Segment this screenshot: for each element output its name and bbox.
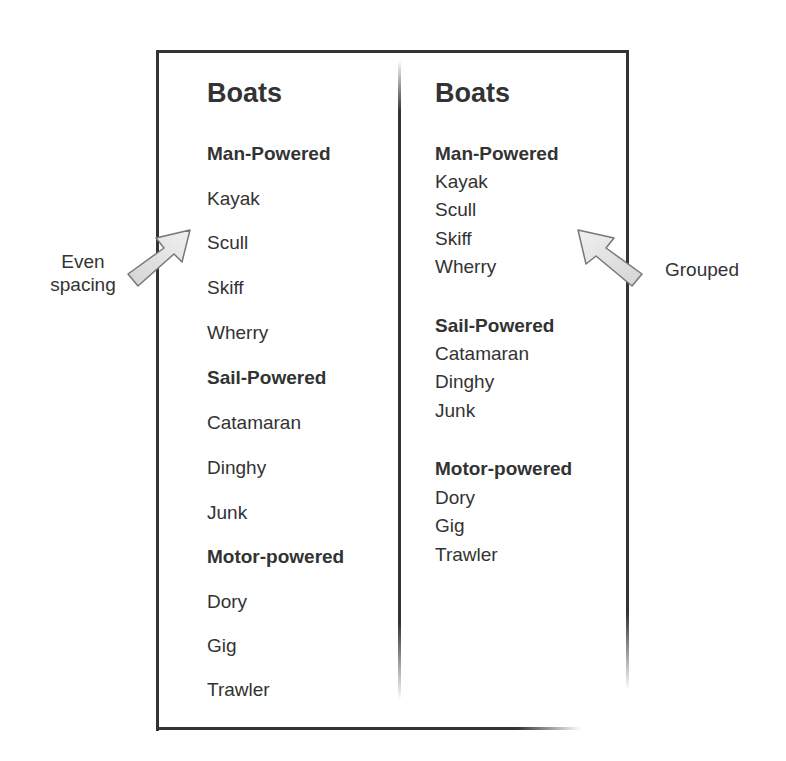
left-group-heading-sail-powered: Sail-Powered — [207, 368, 326, 387]
column-divider — [398, 60, 401, 700]
left-annotation-line-1: Even — [38, 250, 128, 273]
right-list-item: Trawler — [435, 545, 498, 564]
right-list-item: Catamaran — [435, 344, 529, 363]
left-list-item: Junk — [207, 503, 247, 522]
right-list-item: Dory — [435, 488, 475, 507]
left-list-item: Gig — [207, 636, 237, 655]
frame-bottom-border — [156, 727, 581, 730]
right-list-item: Skiff — [435, 229, 472, 248]
left-list-item: Trawler — [207, 680, 270, 699]
left-group-heading-motor-powered: Motor-powered — [207, 547, 344, 566]
right-list-item: Junk — [435, 401, 475, 420]
left-list-item: Skiff — [207, 278, 244, 297]
arrow-up-left-icon — [570, 222, 650, 294]
right-list-item: Dinghy — [435, 372, 494, 391]
right-annotation: Grouped — [652, 258, 752, 281]
frame-left-border — [156, 50, 159, 731]
frame-top-border — [156, 50, 629, 53]
right-list-item: Scull — [435, 200, 476, 219]
left-list-item: Kayak — [207, 189, 260, 208]
left-annotation: Even spacing — [38, 250, 128, 296]
right-list-item: Kayak — [435, 172, 488, 191]
right-group-heading: Motor-powered — [435, 459, 572, 478]
right-group-heading: Sail-Powered — [435, 316, 554, 335]
left-list-item: Dinghy — [207, 458, 266, 477]
left-list-item: Scull — [207, 233, 248, 252]
left-list-item: Wherry — [207, 323, 268, 342]
right-list-item: Gig — [435, 516, 465, 535]
frame-right-border — [626, 50, 629, 690]
left-list-item: Dory — [207, 592, 247, 611]
left-list-item: Catamaran — [207, 413, 301, 432]
right-group-heading: Man-Powered — [435, 144, 559, 163]
left-annotation-line-2: spacing — [38, 273, 128, 296]
right-panel-title: Boats — [435, 80, 510, 107]
left-group-heading-man-powered: Man-Powered — [207, 144, 331, 163]
arrow-up-right-icon — [120, 222, 200, 294]
right-list-item: Wherry — [435, 257, 496, 276]
left-panel-title: Boats — [207, 80, 282, 107]
